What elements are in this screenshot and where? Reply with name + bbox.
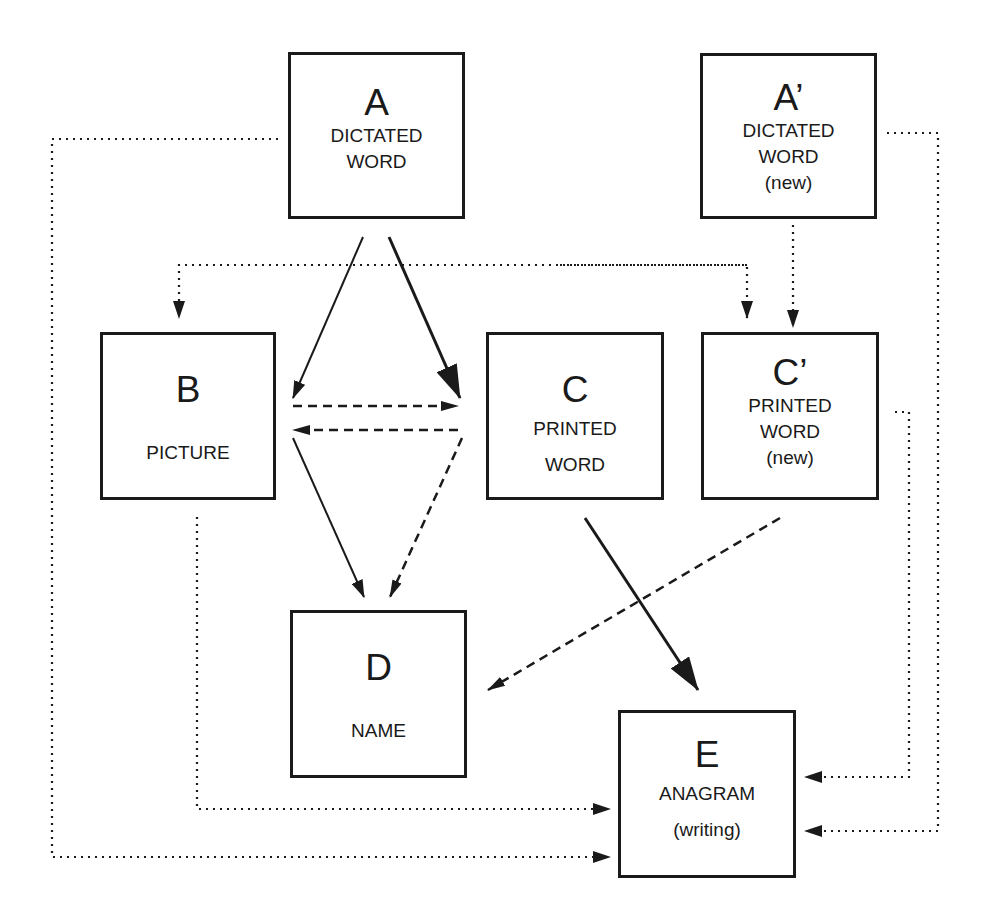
node-letter: A	[364, 83, 389, 123]
node-b-picture: B PICTURE	[100, 332, 276, 500]
node-label-line: NAME	[351, 718, 406, 744]
node-c-prime-printed-word-new: C’ PRINTED WORD (new)	[701, 332, 879, 500]
node-label-line: PRINTED	[748, 393, 831, 419]
node-letter: B	[176, 370, 201, 410]
node-label-line: WORD	[346, 149, 406, 175]
node-label-line: (new)	[766, 445, 814, 471]
node-letter: D	[365, 648, 392, 688]
node-label-line: WORD	[758, 144, 818, 170]
node-label-line: DICTATED	[742, 118, 834, 144]
node-label-line: DICTATED	[330, 123, 422, 149]
node-e-anagram-writing: E ANAGRAM (writing)	[618, 710, 796, 878]
node-label-line: PRINTED	[533, 416, 616, 442]
edge-a-to-c2-dotted	[560, 265, 747, 318]
edge-a-to-b-dotted	[179, 265, 747, 318]
node-letter: C’	[773, 353, 808, 393]
node-label-line: (writing)	[673, 817, 741, 843]
node-label-line: WORD	[545, 452, 605, 478]
node-letter: C	[562, 370, 589, 410]
node-a-dictated-word: A DICTATED WORD	[288, 52, 465, 219]
node-label-line: ANAGRAM	[659, 781, 755, 807]
node-a-prime-dictated-word-new: A’ DICTATED WORD (new)	[700, 53, 877, 219]
node-label-line: (new)	[765, 170, 813, 196]
node-label-line: WORD	[760, 419, 820, 445]
node-letter: E	[695, 735, 720, 775]
edge-b-to-d-solid	[293, 438, 364, 597]
node-label-line: PICTURE	[146, 440, 229, 466]
node-c-printed-word: C PRINTED WORD	[486, 332, 664, 500]
edge-c-to-e-thick	[585, 518, 698, 690]
edge-c2-to-d-dashed	[488, 518, 780, 690]
node-letter: A’	[773, 78, 803, 118]
edge-a-to-c-thick	[389, 237, 460, 398]
edge-a-to-b-solid	[293, 237, 363, 398]
node-d-name: D NAME	[290, 610, 467, 778]
edge-c-to-d-dashed	[390, 438, 462, 597]
